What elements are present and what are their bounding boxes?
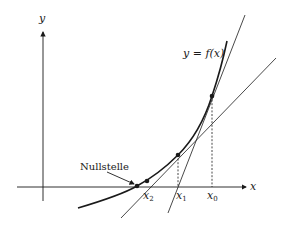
function-curve (78, 41, 227, 208)
tick-x2-index: 2 (149, 195, 153, 203)
tick-label-x1: x1 (176, 190, 187, 203)
curve-label-prefix: y = (183, 47, 205, 60)
y-axis-label: y (39, 13, 45, 24)
root-pointer-arrow (107, 172, 134, 184)
point-x2 (145, 179, 150, 184)
tick-label-x0: x0 (207, 190, 218, 203)
tick-x1-index: 1 (182, 195, 186, 203)
curve-label-arg: (x) (210, 47, 225, 60)
point-x0 (210, 94, 215, 99)
point-x1 (176, 153, 181, 158)
tangent-at-x0 (168, 15, 245, 213)
curve-label: y = f(x) (183, 48, 224, 59)
root-label: Nullstelle (80, 162, 129, 172)
x-axis-label: x (250, 181, 256, 192)
tick-label-x2: x2 (143, 190, 154, 203)
root-point (135, 184, 140, 189)
tick-x0-index: 0 (213, 195, 217, 203)
